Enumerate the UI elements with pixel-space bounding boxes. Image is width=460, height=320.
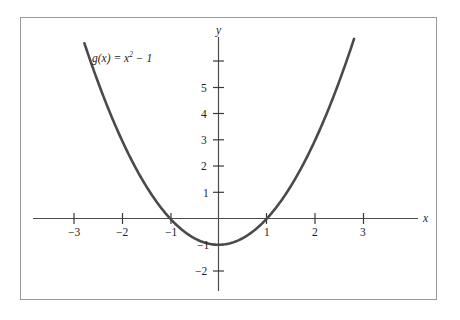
graph-curve-layer: [0, 0, 460, 320]
y-tick-label-2: 2: [201, 161, 207, 173]
x-tick-label-3: 3: [360, 227, 366, 239]
y-tick-label--2: −2: [195, 266, 207, 278]
y-tick-label-1: 1: [203, 188, 209, 200]
x-tick-label-1: 1: [264, 227, 270, 239]
x-tick-label-2: 2: [312, 227, 318, 239]
curve-label-minus-one: − 1: [133, 52, 152, 64]
y-tick-label-4: 4: [201, 109, 207, 121]
curve-label-equals: =: [111, 52, 125, 64]
y-tick-label--1: −1: [197, 240, 209, 252]
y-tick-label-5: 5: [201, 83, 207, 95]
x-tick-label--3: −3: [68, 227, 80, 239]
x-axis-label: x: [423, 213, 428, 225]
figure-container: −3 −2 −1 1 2 3 5 4 3 2 1 −1 −2 x y g(x) …: [0, 0, 460, 320]
curve-equation-label: g(x) = x2 − 1: [92, 51, 152, 64]
x-tick-label--1: −1: [165, 227, 177, 239]
y-axis-label: y: [216, 25, 221, 37]
x-tick-label--2: −2: [116, 227, 128, 239]
y-tick-label-3: 3: [201, 135, 207, 147]
